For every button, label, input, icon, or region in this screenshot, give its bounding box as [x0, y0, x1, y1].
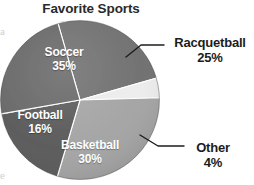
callout-label-racquetball: Racquetball 25%	[166, 35, 254, 65]
pie-chart-figure: Favorite Sports a e	[0, 0, 254, 185]
slice-label-football: Football 16%	[2, 108, 78, 136]
slice-label-basketball: Basketball 30%	[48, 138, 132, 166]
callout-label-other: Other 4%	[186, 140, 240, 170]
callout-label-racquetball-name: Racquetball	[174, 35, 245, 50]
callout-label-other-value: 4%	[186, 155, 240, 170]
slice-label-football-name: Football	[17, 108, 62, 122]
callout-label-racquetball-value: 25%	[166, 50, 254, 65]
slice-label-basketball-value: 30%	[48, 152, 132, 166]
slice-label-soccer-value: 35%	[28, 59, 100, 73]
slice-label-soccer-name: Soccer	[45, 45, 84, 59]
slice-label-basketball-name: Basketball	[61, 138, 119, 152]
callout-label-other-name: Other	[196, 140, 230, 155]
slice-label-soccer: Soccer 35%	[28, 45, 100, 73]
slice-label-football-value: 16%	[2, 122, 78, 136]
